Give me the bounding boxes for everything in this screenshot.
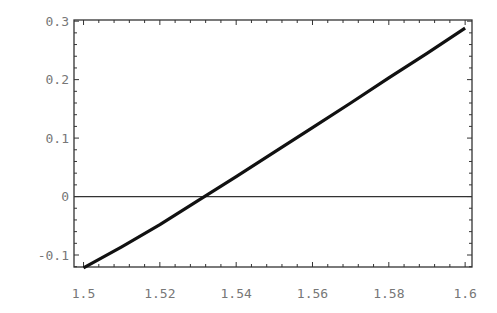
plot-frame	[74, 20, 472, 267]
data-series	[84, 28, 466, 268]
y-tick-label: -0.1	[38, 248, 69, 263]
x-tick-label: 1.54	[221, 286, 252, 301]
y-tick-label: 0.2	[46, 72, 69, 87]
plot-area-border	[74, 20, 472, 267]
curve-line	[84, 28, 466, 268]
axis-ticks	[74, 20, 472, 267]
x-tick-label: 1.52	[144, 286, 175, 301]
x-tick-label: 1.56	[297, 286, 328, 301]
y-tick-label: 0	[61, 189, 69, 204]
x-tick-label: 1.5	[72, 286, 95, 301]
y-tick-label: 0.1	[46, 131, 69, 146]
x-tick-label: 1.58	[373, 286, 404, 301]
y-axis-tick-labels: -0.100.10.20.3	[38, 14, 69, 263]
y-tick-label: 0.3	[46, 14, 69, 29]
line-chart: 1.51.521.541.561.581.6 -0.100.10.20.3	[0, 0, 497, 313]
x-tick-label: 1.6	[453, 286, 476, 301]
x-axis-tick-labels: 1.51.521.541.561.581.6	[72, 286, 477, 301]
